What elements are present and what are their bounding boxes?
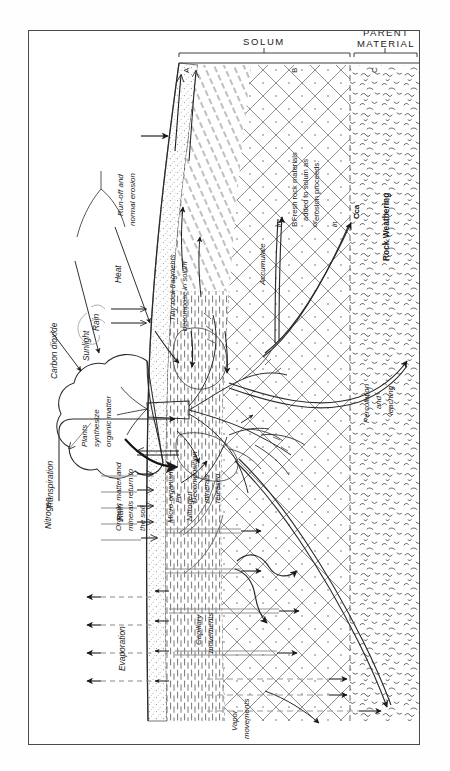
zone-b-horizon xyxy=(221,65,350,721)
label-accum-in-1: in xyxy=(274,221,283,227)
label-accumulate: Accumulate xyxy=(258,243,267,286)
label-accum-or: or xyxy=(310,220,319,227)
label-fresh-rock-line1: Fresh rock materials xyxy=(290,152,299,221)
label-carbon-dioxide: Carbon dioxide xyxy=(49,322,59,379)
heading-brackets xyxy=(179,48,417,57)
horizon-letter-b: B xyxy=(290,68,299,73)
label-rain-upper: Rain xyxy=(91,313,101,331)
label-fresh-rock-line2: added to solum as xyxy=(301,159,310,221)
heading-solum: SOLUM xyxy=(243,36,285,47)
label-percolation-line2: and xyxy=(374,395,383,409)
label-organic-return-line3: the soil xyxy=(138,505,147,531)
heading-parent-material-line1: PARENT xyxy=(363,31,409,38)
label-minerals: minerals xyxy=(202,474,211,503)
label-vapor-line2: movements xyxy=(242,699,251,739)
label-rock-weathering: Rock Weathering xyxy=(381,193,391,261)
label-tiny-rock-line2: decompose in solum xyxy=(180,261,189,331)
label-runoff-line1: Run-off and xyxy=(116,174,125,216)
label-nitrogen-input: Nitrogen xyxy=(43,497,53,529)
label-fresh-rock-line3: erosion proceeds. xyxy=(312,161,321,221)
horizon-letter-a: A xyxy=(182,67,191,73)
label-vapor-line1: Vapor xyxy=(230,710,239,731)
label-plants-line2: synthesize xyxy=(92,409,101,447)
label-evaporation: Evaporation xyxy=(117,626,127,671)
label-rain-lower: Rain xyxy=(115,503,125,521)
horizon-letter-c: C xyxy=(370,67,379,73)
label-released: released xyxy=(213,473,222,503)
label-accum-cca: Cca xyxy=(352,204,361,219)
figure-canvas: SOLUM PARENT MATERIAL A B C Cca Run-off … xyxy=(0,0,450,771)
soil-diagram-svg: SOLUM PARENT MATERIAL A B C Cca Run-off … xyxy=(29,31,419,744)
label-capillary-line2: movements xyxy=(206,613,215,653)
label-runoff-line2: normal erosion xyxy=(128,173,137,226)
figure-frame: SOLUM PARENT MATERIAL A B C Cca Run-off … xyxy=(28,30,420,745)
label-accum-in-2: in xyxy=(330,221,339,227)
heading-parent-material-line2: MATERIAL xyxy=(357,38,415,49)
label-organic-return-line2: minerals return to xyxy=(126,468,135,531)
label-nitrogen-fix: Nitrogen xyxy=(185,492,194,521)
label-tiny-rock-line1: Tiny rock fragments xyxy=(168,254,177,321)
label-sunlight: Sunlight xyxy=(81,330,91,361)
label-plants-line1: Plants xyxy=(80,425,89,447)
label-percolation-line3: leaching xyxy=(386,385,395,415)
label-accum-b: B xyxy=(290,222,299,227)
label-capillary-line1: Capillary xyxy=(194,614,203,645)
label-heat: Heat xyxy=(113,265,123,283)
zone-c-parent-material xyxy=(350,65,419,721)
label-fix: Fix xyxy=(174,492,183,503)
label-percolation-line1: Percolation xyxy=(362,384,371,423)
label-plants-line3: organic matter xyxy=(104,396,113,447)
